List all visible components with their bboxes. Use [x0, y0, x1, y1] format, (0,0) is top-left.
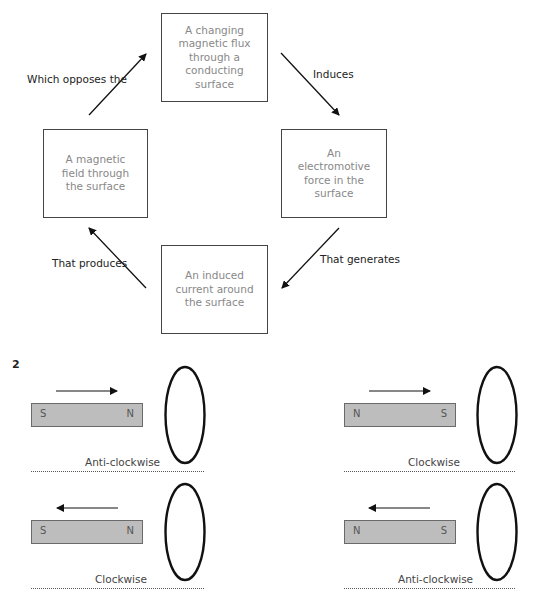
current-direction-label: Clockwise: [408, 456, 460, 468]
magnet-pole-right: S: [441, 525, 447, 536]
box-emf-text: An electromotive force in the surface: [298, 147, 371, 201]
dotted-divider: [344, 588, 515, 589]
current-direction-label: Clockwise: [95, 573, 147, 585]
box-induced-current: An induced current around the surface: [161, 245, 268, 334]
edge-label-induces: Induces: [313, 68, 354, 80]
magnet-pole-right: S: [441, 408, 447, 419]
magnet-pole-left: N: [353, 525, 360, 536]
box-magnetic-field: A magnetic field through the surface: [43, 129, 148, 218]
bar-magnet: N S: [344, 520, 456, 544]
box-changing-flux: A changing magnetic flux through a condu…: [161, 13, 268, 102]
arrow-top-to-right: [281, 53, 339, 115]
dotted-divider: [31, 471, 204, 472]
bar-magnet: S N: [31, 520, 143, 544]
magnet-pole-left: N: [353, 408, 360, 419]
bar-magnet: N S: [344, 403, 456, 427]
magnet-pole-left: S: [40, 525, 46, 536]
dotted-divider: [31, 588, 204, 589]
edge-label-which-opposes: Which opposes the: [27, 73, 127, 85]
magnet-pole-right: N: [127, 525, 134, 536]
box-emf: An electromotive force in the surface: [281, 129, 387, 218]
conducting-loop: [478, 484, 517, 580]
current-direction-label: Anti-clockwise: [398, 573, 473, 585]
edge-label-that-produces: That produces: [52, 257, 127, 269]
current-direction-label: Anti-clockwise: [85, 456, 160, 468]
box-induced-current-text: An induced current around the surface: [175, 269, 253, 310]
conducting-loop: [166, 367, 205, 463]
dotted-divider: [344, 471, 515, 472]
bar-magnet: S N: [31, 403, 143, 427]
magnet-pole-left: S: [40, 408, 46, 419]
box-changing-flux-text: A changing magnetic flux through a condu…: [168, 24, 261, 92]
conducting-loop: [166, 484, 205, 580]
box-magnetic-field-text: A magnetic field through the surface: [62, 153, 129, 194]
conducting-loop: [478, 367, 517, 463]
magnet-pole-right: N: [127, 408, 134, 419]
edge-label-that-generates: That generates: [320, 253, 400, 265]
question-number: 2: [12, 358, 20, 371]
arrow-layer: [0, 0, 546, 601]
